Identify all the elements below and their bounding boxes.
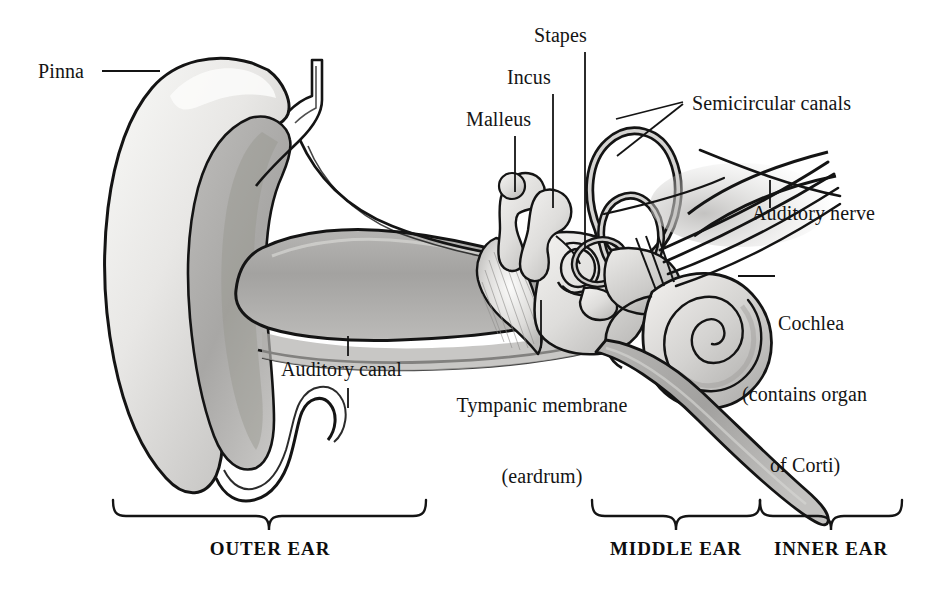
label-stapes: Stapes xyxy=(534,24,587,48)
label-cochlea-line2: (contains organ xyxy=(740,383,920,407)
label-tympanic-membrane: Tympanic membrane (eardrum) xyxy=(449,347,635,536)
label-cochlea-line1: Cochlea xyxy=(740,312,920,336)
leader-semicircular-upper xyxy=(616,102,683,119)
section-label-inner-ear: INNER EAR xyxy=(756,538,906,560)
section-label-middle-ear: MIDDLE EAR xyxy=(595,538,757,560)
label-incus: Incus xyxy=(507,66,551,90)
label-auditory-canal: Auditory canal xyxy=(281,358,402,382)
section-label-outer-ear: OUTER EAR xyxy=(189,538,351,560)
label-tympanic-membrane-line2: (eardrum) xyxy=(449,465,635,489)
label-cochlea-line3: of Corti) xyxy=(740,454,920,478)
label-semicircular-canals: Semicircular canals xyxy=(692,92,851,116)
ear-anatomy-figure: Pinna Malleus Incus Stapes Semicircular … xyxy=(0,0,931,592)
label-cochlea: Cochlea (contains organ of Corti) xyxy=(740,265,920,525)
label-auditory-nerve: Auditory nerve xyxy=(752,202,875,226)
bracket-outer-ear xyxy=(113,500,426,530)
label-tympanic-membrane-line1: Tympanic membrane xyxy=(449,394,635,418)
label-pinna: Pinna xyxy=(38,60,84,84)
label-malleus: Malleus xyxy=(466,108,531,132)
